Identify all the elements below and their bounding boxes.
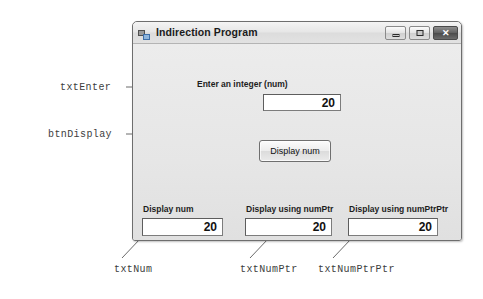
maximize-icon: [416, 30, 423, 36]
annotation-label-txtnum: txtNum: [114, 264, 152, 275]
display-numptrptr-label: Display using numPtrPtr: [349, 205, 448, 214]
annotation-label-txtnumptr: txtNumPtr: [240, 264, 298, 275]
maximize-button[interactable]: [409, 26, 430, 40]
txt-numptr-output[interactable]: 20: [245, 218, 332, 236]
app-window-icon: [138, 27, 151, 39]
window-title: Indirection Program: [156, 27, 385, 38]
txt-enter-input[interactable]: 20: [263, 94, 341, 111]
enter-integer-label: Enter an integer (num): [197, 80, 288, 89]
display-num-button[interactable]: Display num: [259, 140, 331, 162]
close-icon: ✕: [442, 28, 450, 37]
window-controls: ✕: [385, 26, 458, 40]
form-client-area: Enter an integer (num) 20 Display num Di…: [133, 44, 461, 240]
minimize-button[interactable]: [385, 26, 406, 40]
display-num-label: Display num: [143, 205, 194, 214]
display-numptr-label: Display using numPtr: [246, 205, 333, 214]
close-button[interactable]: ✕: [433, 26, 458, 40]
txt-num-output[interactable]: 20: [142, 218, 223, 236]
title-bar[interactable]: Indirection Program ✕: [133, 22, 461, 44]
annotation-label-btndisplay: btnDisplay: [48, 129, 112, 140]
txt-numptrptr-output[interactable]: 20: [348, 218, 438, 236]
application-window: Indirection Program ✕ Enter an integer (…: [132, 21, 462, 241]
annotation-label-txtnumptrptr: txtNumPtrPtr: [318, 264, 395, 275]
annotation-label-txtenter: txtEnter: [60, 82, 111, 93]
minimize-icon: [392, 34, 399, 37]
